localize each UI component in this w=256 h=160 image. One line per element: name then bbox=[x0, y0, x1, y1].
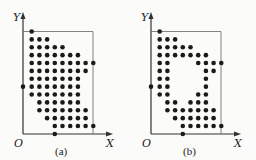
lattice-dot bbox=[53, 100, 58, 105]
lattice-dot bbox=[29, 37, 34, 42]
lattice-dot bbox=[173, 45, 178, 50]
x-axis-dot bbox=[181, 132, 186, 137]
lattice-dot bbox=[204, 108, 209, 113]
lattice-dot bbox=[60, 69, 65, 74]
lattice-dot bbox=[83, 69, 88, 74]
lattice-dot bbox=[188, 53, 193, 58]
lattice-dot bbox=[37, 69, 42, 74]
lattice-dot bbox=[157, 61, 162, 66]
lattice-dot bbox=[83, 61, 88, 66]
y-axis-label: Y bbox=[13, 12, 20, 23]
x-axis-arrow-icon bbox=[234, 132, 241, 137]
lattice-dot bbox=[45, 37, 50, 42]
panel-a-dots bbox=[21, 29, 96, 136]
lattice-dot bbox=[196, 100, 201, 105]
lattice-dot bbox=[45, 53, 50, 58]
panel-b-plot bbox=[128, 0, 256, 160]
lattice-dot bbox=[29, 76, 34, 81]
lattice-dot bbox=[204, 76, 209, 81]
lattice-dot bbox=[181, 53, 186, 58]
lattice-dot bbox=[29, 45, 34, 50]
lattice-dot bbox=[204, 61, 209, 66]
x-axis-arrow-icon bbox=[106, 132, 113, 137]
lattice-dot bbox=[60, 100, 65, 105]
lattice-dot bbox=[204, 100, 209, 105]
lattice-dot bbox=[157, 84, 162, 89]
lattice-dot bbox=[211, 61, 216, 66]
lattice-dot bbox=[173, 37, 178, 42]
lattice-dot bbox=[211, 108, 216, 113]
lattice-dot bbox=[29, 84, 34, 89]
lattice-dot bbox=[165, 84, 170, 89]
lattice-dot bbox=[76, 76, 81, 81]
lattice-dot bbox=[83, 116, 88, 121]
lattice-dot bbox=[196, 116, 201, 121]
lattice-dot bbox=[219, 124, 224, 129]
lattice-dot bbox=[37, 45, 42, 50]
y-axis-label: Y bbox=[141, 12, 148, 23]
lattice-dot bbox=[60, 116, 65, 121]
lattice-dot bbox=[188, 124, 193, 129]
lattice-dot bbox=[53, 76, 58, 81]
origin-label: O bbox=[142, 138, 151, 149]
lattice-dot bbox=[91, 61, 96, 66]
panel-b: Y O X (b) bbox=[128, 0, 256, 160]
x-axis-dot bbox=[53, 132, 58, 137]
lattice-dot bbox=[76, 116, 81, 121]
lattice-dot bbox=[157, 53, 162, 58]
lattice-dot bbox=[53, 92, 58, 97]
lattice-dot bbox=[45, 84, 50, 89]
lattice-dot bbox=[165, 61, 170, 66]
lattice-dot bbox=[76, 108, 81, 113]
x-axis-label: X bbox=[234, 138, 242, 149]
lattice-dot bbox=[53, 108, 58, 113]
lattice-dot bbox=[29, 29, 34, 34]
lattice-dot bbox=[68, 76, 73, 81]
lattice-dot bbox=[53, 124, 58, 129]
lattice-dot bbox=[68, 100, 73, 105]
panel-caption: (a) bbox=[55, 146, 67, 157]
lattice-dot bbox=[29, 53, 34, 58]
panel-a: Y O X (a) bbox=[0, 0, 128, 160]
lattice-dot bbox=[157, 92, 162, 97]
lattice-dot bbox=[211, 69, 216, 74]
lattice-dot bbox=[60, 61, 65, 66]
lattice-dot bbox=[45, 76, 50, 81]
lattice-dot bbox=[45, 116, 50, 121]
lattice-dot bbox=[37, 92, 42, 97]
lattice-dot bbox=[204, 53, 209, 58]
lattice-dot bbox=[68, 53, 73, 58]
lattice-dot bbox=[219, 61, 224, 66]
lattice-dot bbox=[76, 100, 81, 105]
lattice-dot bbox=[45, 100, 50, 105]
lattice-dot bbox=[204, 92, 209, 97]
lattice-dot bbox=[196, 108, 201, 113]
lattice-dot bbox=[60, 108, 65, 113]
lattice-dot bbox=[165, 76, 170, 81]
lattice-dot bbox=[173, 53, 178, 58]
lattice-dot bbox=[68, 116, 73, 121]
lattice-dot bbox=[165, 100, 170, 105]
lattice-dot bbox=[204, 116, 209, 121]
lattice-dot bbox=[181, 116, 186, 121]
lattice-dot bbox=[45, 45, 50, 50]
lattice-dot bbox=[53, 116, 58, 121]
y-axis-dot bbox=[149, 84, 154, 89]
lattice-dot bbox=[53, 84, 58, 89]
lattice-dot bbox=[45, 108, 50, 113]
lattice-dot bbox=[181, 124, 186, 129]
lattice-dot bbox=[165, 108, 170, 113]
lattice-dot bbox=[188, 116, 193, 121]
lattice-dot bbox=[60, 124, 65, 129]
lattice-dot bbox=[60, 76, 65, 81]
lattice-dot bbox=[196, 92, 201, 97]
lattice-dot bbox=[157, 29, 162, 34]
lattice-dot bbox=[60, 92, 65, 97]
lattice-dot bbox=[157, 37, 162, 42]
x-axis-label: X bbox=[106, 138, 114, 149]
lattice-dot bbox=[60, 45, 65, 50]
lattice-dot bbox=[91, 124, 96, 129]
lattice-dot bbox=[165, 37, 170, 42]
lattice-dot bbox=[76, 69, 81, 74]
lattice-dot bbox=[188, 45, 193, 50]
